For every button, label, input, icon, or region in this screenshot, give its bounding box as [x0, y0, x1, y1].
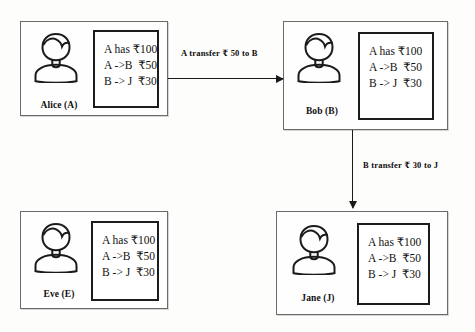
ledger-line: A has ₹100	[102, 232, 151, 248]
person-avatar-icon	[31, 31, 81, 83]
ledger-line: A has ₹100	[368, 234, 422, 250]
diagram-canvas: Alice (A) A has ₹100 A ->B ₹50 B -> J ₹3…	[0, 0, 475, 332]
node-alice[interactable]: Alice (A) A has ₹100 A ->B ₹50 B -> J ₹3…	[20, 21, 168, 116]
node-alice-label: Alice (A)	[27, 100, 91, 110]
ledger-line: A ->B ₹50	[369, 59, 426, 75]
node-bob-label: Bob (B)	[290, 106, 354, 116]
ledger-line: B -> J ₹30	[104, 73, 151, 89]
node-eve[interactable]: Eve (E) A has ₹100 A ->B ₹50 B -> J ₹30	[20, 211, 168, 309]
ledger-line: A ->B ₹50	[104, 57, 151, 73]
ledger-line: B -> J ₹30	[369, 75, 426, 91]
edge-label-alice-to-bob: A transfer ₹ 50 to B	[181, 48, 258, 58]
ledger-line: A has ₹100	[104, 41, 151, 57]
person-avatar-icon	[289, 223, 339, 275]
ledger-line: A has ₹100	[369, 43, 426, 59]
ledger-line: B -> J ₹30	[102, 264, 151, 280]
node-eve-content: Eve (E) A has ₹100 A ->B ₹50 B -> J ₹30	[21, 212, 167, 308]
node-alice-content: Alice (A) A has ₹100 A ->B ₹50 B -> J ₹3…	[21, 22, 167, 115]
ledger-line: A ->B ₹50	[368, 250, 422, 266]
ledger-box-bob: A has ₹100 A ->B ₹50 B -> J ₹30	[358, 32, 434, 120]
ledger-box-eve: A has ₹100 A ->B ₹50 B -> J ₹30	[91, 221, 159, 301]
ledger-box-alice: A has ₹100 A ->B ₹50 B -> J ₹30	[93, 30, 159, 108]
arrow-bob-to-jane	[352, 130, 353, 208]
node-eve-label: Eve (E)	[27, 289, 91, 299]
ledger-line: A ->B ₹50	[102, 248, 151, 264]
person-avatar-icon	[31, 221, 81, 273]
person-avatar-icon	[294, 31, 344, 83]
ledger-line: B -> J ₹30	[368, 266, 422, 282]
node-jane-label: Jane (J)	[285, 293, 351, 303]
node-bob-content: Bob (B) A has ₹100 A ->B ₹50 B -> J ₹30	[284, 22, 447, 129]
edge-label-bob-to-jane: B transfer ₹ 30 to J	[363, 160, 438, 170]
arrow-alice-to-bob	[168, 78, 283, 79]
node-bob[interactable]: Bob (B) A has ₹100 A ->B ₹50 B -> J ₹30	[283, 21, 448, 130]
node-jane-content: Jane (J) A has ₹100 A ->B ₹50 B -> J ₹30	[277, 212, 447, 314]
node-jane[interactable]: Jane (J) A has ₹100 A ->B ₹50 B -> J ₹30	[276, 211, 448, 315]
ledger-box-jane: A has ₹100 A ->B ₹50 B -> J ₹30	[357, 223, 430, 305]
